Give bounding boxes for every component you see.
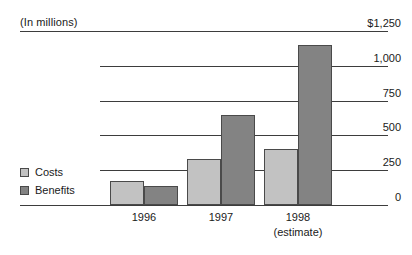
legend-label-costs: Costs [35, 166, 63, 178]
legend-swatch-benefits-icon [20, 186, 29, 195]
legend-label-benefits: Benefits [35, 184, 75, 196]
bar-costs-1997 [187, 159, 221, 205]
chart-legend: Costs Benefits [20, 163, 75, 199]
x-axis-baseline [20, 205, 388, 206]
y-tick-label-750: 750 [383, 87, 401, 99]
bar-costs-1998 [264, 149, 298, 205]
y-tick-label-1250: $1,250 [367, 17, 401, 29]
x-label-1998: 1998 [258, 211, 338, 224]
gridline-1000 [100, 66, 388, 67]
bar-costs-1996 [110, 181, 144, 205]
legend-item-benefits: Benefits [20, 181, 75, 199]
y-tick-label-500: 500 [383, 121, 401, 133]
gridline-750 [100, 101, 388, 102]
x-label-1997: 1997 [181, 211, 261, 224]
y-tick-label-0: 0 [395, 191, 401, 203]
bar-benefits-1997 [221, 115, 255, 205]
legend-item-costs: Costs [20, 163, 75, 181]
x-sublabel-1998: (estimate) [258, 226, 338, 239]
gridline-1250 [20, 31, 388, 32]
bar-benefits-1998 [298, 45, 332, 205]
bar-chart-figure: (In millions) $1,2501,0007505002500 1996… [0, 0, 412, 255]
plot-area: $1,2501,0007505002500 199619971998(estim… [0, 0, 412, 255]
y-tick-label-250: 250 [383, 156, 401, 168]
x-label-1996: 1996 [104, 211, 184, 224]
legend-swatch-costs-icon [20, 168, 29, 177]
y-tick-label-1000: 1,000 [373, 52, 401, 64]
bar-benefits-1996 [144, 186, 178, 205]
